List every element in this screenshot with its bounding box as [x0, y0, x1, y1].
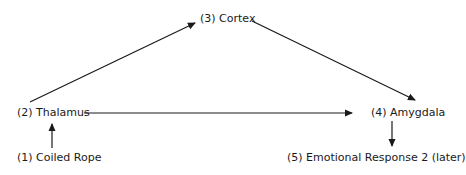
edge-cortex-to-amygdala — [252, 21, 415, 100]
node-coiled-rope: (1) Coiled Rope — [17, 151, 101, 164]
node-cortex: (3) Cortex — [200, 12, 255, 25]
node-thalamus: (2) Thalamus — [17, 106, 90, 119]
node-emotional-response: (5) Emotional Response 2 (later) — [287, 151, 466, 164]
edge-thalamus-to-cortex — [30, 23, 195, 102]
node-amygdala: (4) Amygdala — [371, 106, 445, 119]
